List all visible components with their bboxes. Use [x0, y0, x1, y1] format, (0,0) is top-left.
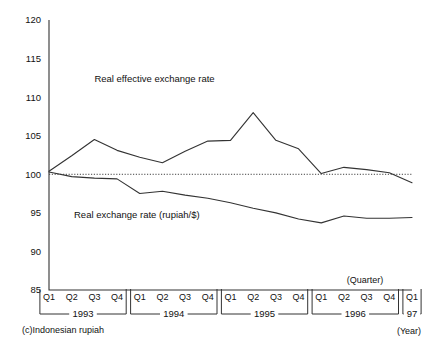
year-group-label: 1995	[254, 308, 275, 319]
year-group-label: 97	[407, 308, 418, 319]
chart-caption: (c)Indonesian rupiah	[22, 325, 104, 335]
quarter-tick-label: Q3	[179, 292, 191, 302]
y-axis-tick-label: 105	[25, 130, 41, 141]
chart-container: 859095100105110115120 Real effective exc…	[0, 0, 432, 348]
y-axis-tick-label: 95	[30, 207, 41, 218]
y-axis-tick-label: 120	[25, 14, 41, 25]
year-group-label: 1993	[72, 308, 93, 319]
quarter-tick-label: Q2	[247, 292, 259, 302]
quarter-tick-label: Q4	[383, 292, 395, 302]
axis-lines	[49, 20, 412, 290]
quarter-tick-label: Q2	[66, 292, 78, 302]
quarter-tick-label: Q2	[156, 292, 168, 302]
quarter-tick-label: Q2	[338, 292, 350, 302]
y-axis-tick-labels: 859095100105110115120	[25, 14, 41, 295]
series-annotation-labels: Real effective exchange rateReal exchang…	[74, 73, 215, 220]
data-series-group	[49, 113, 412, 223]
exchange-rate-line-chart: 859095100105110115120 Real effective exc…	[0, 0, 432, 348]
quarter-tick-label: Q1	[315, 292, 327, 302]
year-group-label: 1994	[163, 308, 184, 319]
quarter-tick-label: Q1	[224, 292, 236, 302]
quarter-tick-label: Q3	[88, 292, 100, 302]
quarter-tick-label: Q4	[202, 292, 214, 302]
y-axis-tick-label: 110	[26, 92, 41, 103]
series-line-real-effective-exchange-rate	[49, 113, 412, 183]
year-group-label: 1996	[345, 308, 366, 319]
series-label-real-exchange-rate: Real exchange rate (rupiah/$)	[74, 209, 200, 220]
series-label-real-effective-exchange-rate: Real effective exchange rate	[94, 73, 214, 84]
y-axis-tick-label: 100	[25, 169, 41, 180]
year-axis-note: (Year)	[397, 326, 421, 336]
year-group-bracket	[403, 289, 404, 314]
quarter-tick-label: Q3	[361, 292, 373, 302]
quarter-axis-note: (Quarter)	[347, 275, 384, 285]
year-group-bracket	[420, 289, 421, 314]
y-axis-tick-label: 90	[30, 246, 41, 257]
quarter-tick-label: Q1	[43, 292, 55, 302]
y-axis-tick-label: 115	[26, 53, 41, 64]
quarter-tick-label: Q4	[111, 292, 123, 302]
quarter-tick-label: Q1	[406, 292, 418, 302]
quarter-tick-label: Q4	[293, 292, 305, 302]
chart-axes	[49, 20, 412, 290]
quarter-tick-label: Q3	[270, 292, 282, 302]
quarter-tick-label: Q1	[134, 292, 146, 302]
quarter-tick-labels: Q1Q2Q3Q4Q1Q2Q3Q4Q1Q2Q3Q4Q1Q2Q3Q4Q1	[43, 292, 418, 302]
